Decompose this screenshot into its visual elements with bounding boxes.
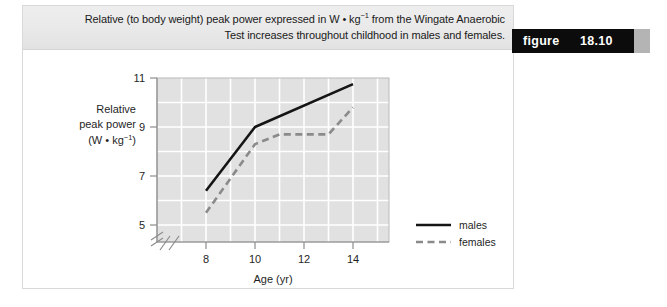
- y-axis-title-line-1: Relative: [96, 103, 136, 115]
- figure-panel: Relative (to body weight) peak power exp…: [22, 5, 514, 289]
- y-axis-title-line-3: (W • kg−1): [88, 133, 136, 146]
- figure-caption-line-2: Test increases throughout childhood in m…: [35, 27, 505, 43]
- chart-legend: males females: [416, 219, 496, 248]
- y-axis-ticks: [150, 78, 157, 225]
- chart-area: 11 9 7 5 8 10 12 14: [23, 50, 513, 290]
- y-axis-unit-superscript: −1: [124, 133, 133, 142]
- legend-label-females: females: [459, 236, 496, 248]
- figure-caption-line-1-tail: from the Wingate Anaerobic: [369, 13, 505, 25]
- legend-label-males: males: [459, 219, 487, 231]
- figure-caption: Relative (to body weight) peak power exp…: [35, 11, 505, 43]
- y-tick-label-7: 7: [139, 170, 145, 182]
- figure-caption-line-1: Relative (to body weight) peak power exp…: [35, 11, 505, 27]
- figure-badge-word: figure: [523, 34, 560, 48]
- y-tick-label-9: 9: [139, 121, 145, 133]
- y-tick-label-5: 5: [139, 219, 145, 231]
- x-tick-label-8: 8: [203, 253, 209, 265]
- figure-badge-tab: [634, 29, 650, 53]
- y-axis-unit-pre: (W • kg: [88, 134, 124, 146]
- x-axis-title: Age (yr): [253, 273, 292, 285]
- figure-caption-band: Relative (to body weight) peak power exp…: [23, 6, 513, 50]
- x-tick-label-10: 10: [249, 253, 261, 265]
- figure-number-badge: figure 18.10: [512, 29, 650, 53]
- figure-caption-line-1-text: Relative (to body weight) peak power exp…: [85, 13, 361, 25]
- figure-caption-line-1-superscript: −1: [361, 11, 369, 20]
- figure-badge-number: 18.10: [580, 34, 613, 48]
- y-axis-unit-post: ): [132, 134, 136, 146]
- x-tick-label-12: 12: [298, 253, 310, 265]
- line-chart: 11 9 7 5 8 10 12 14: [23, 50, 515, 290]
- x-axis-ticks: [206, 242, 353, 249]
- y-tick-label-11: 11: [134, 72, 145, 84]
- y-axis-title-line-2: peak power: [79, 118, 136, 130]
- x-tick-label-14: 14: [347, 253, 359, 265]
